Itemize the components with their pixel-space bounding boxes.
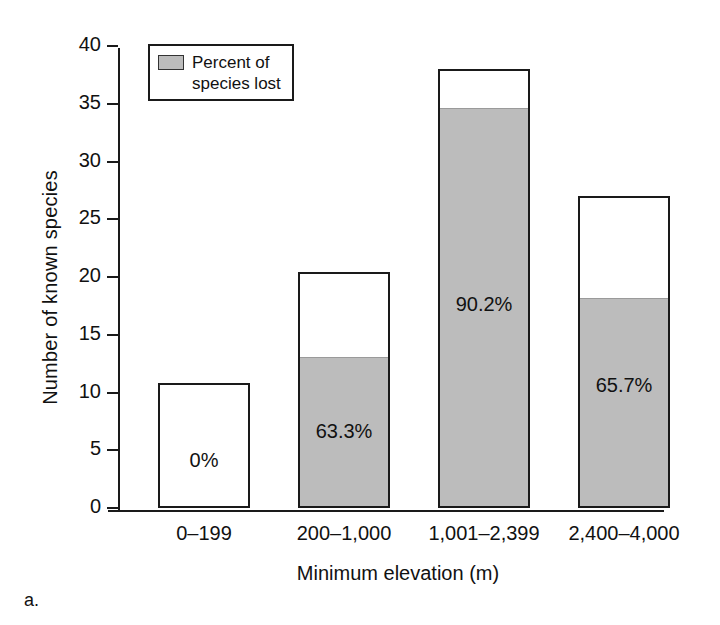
y-tick: 0 (107, 507, 118, 509)
legend-label-line-2: species lost (192, 73, 281, 94)
y-tick: 10 (107, 392, 118, 394)
y-tick-mark (107, 45, 118, 47)
x-category-label: 2,400–4,000 (554, 522, 694, 545)
bar-percent-label: 90.2% (440, 293, 528, 316)
bar-segment-species-lost (580, 298, 668, 506)
y-tick-mark (107, 392, 118, 394)
y-tick-mark (107, 449, 118, 451)
bar-percent-label: 63.3% (300, 420, 388, 443)
y-tick: 40 (107, 45, 118, 47)
y-tick-label: 0 (41, 495, 101, 518)
y-tick-label: 5 (41, 437, 101, 460)
y-tick-label: 30 (41, 149, 101, 172)
bar: 90.2% (438, 69, 530, 508)
bar-percent-label: 0% (160, 449, 248, 472)
y-tick: 15 (107, 334, 118, 336)
y-tick: 25 (107, 218, 118, 220)
plot-area: 0510152025303540 0%63.3%90.2%65.7% (118, 48, 678, 510)
figure-letter: a. (24, 590, 39, 611)
x-category-label: 1,001–2,399 (414, 522, 554, 545)
y-tick: 5 (107, 449, 118, 451)
figure-panel: Number of known species 0510152025303540… (0, 0, 720, 625)
x-axis-line (108, 510, 664, 512)
y-tick-mark (107, 507, 118, 509)
bar: 0% (158, 383, 250, 508)
y-tick-mark (107, 334, 118, 336)
x-category-label: 200–1,000 (274, 522, 414, 545)
x-category-label: 0–199 (134, 522, 274, 545)
y-axis-line (118, 48, 120, 512)
legend-label: Percent of species lost (192, 52, 281, 94)
legend-label-line-1: Percent of (192, 52, 281, 73)
y-tick: 20 (107, 276, 118, 278)
bar: 65.7% (578, 196, 670, 508)
y-tick: 30 (107, 161, 118, 163)
y-tick-label: 15 (41, 322, 101, 345)
y-tick-mark (107, 276, 118, 278)
y-tick-mark (107, 103, 118, 105)
bar: 63.3% (298, 272, 390, 508)
bar-percent-label: 65.7% (580, 374, 668, 397)
legend-swatch-percent-lost (158, 55, 184, 70)
y-tick-mark (107, 218, 118, 220)
y-tick-label: 20 (41, 264, 101, 287)
y-tick-label: 40 (41, 33, 101, 56)
y-tick-label: 25 (41, 206, 101, 229)
x-axis-title: Minimum elevation (m) (118, 562, 678, 585)
y-tick-mark (107, 161, 118, 163)
legend: Percent of species lost (148, 44, 294, 101)
y-tick: 35 (107, 103, 118, 105)
y-axis-title: Number of known species (39, 88, 62, 488)
y-tick-label: 10 (41, 380, 101, 403)
y-tick-label: 35 (41, 91, 101, 114)
